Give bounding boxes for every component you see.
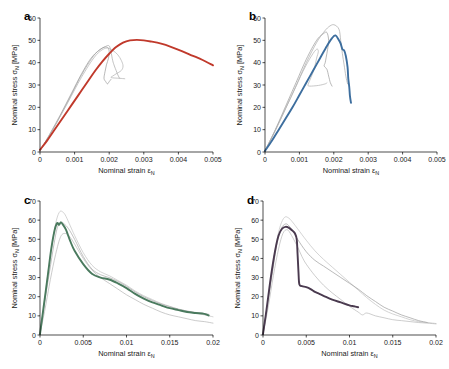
svg-text:50: 50: [28, 37, 36, 44]
svg-text:Nominal strain εN: Nominal strain εN: [98, 349, 155, 359]
svg-text:60: 60: [253, 15, 261, 22]
panel-b: b 010203040506000.0010.0020.0030.0040.00…: [225, 0, 449, 185]
svg-text:0.003: 0.003: [135, 156, 153, 163]
svg-text:0: 0: [257, 149, 261, 156]
svg-text:60: 60: [251, 217, 259, 224]
svg-text:70: 70: [251, 198, 259, 205]
svg-text:30: 30: [28, 274, 36, 281]
svg-text:10: 10: [28, 312, 36, 319]
svg-text:0.002: 0.002: [325, 156, 343, 163]
svg-text:Nominal stress σN [MPa]: Nominal stress σN [MPa]: [10, 228, 20, 309]
svg-text:30: 30: [253, 82, 261, 89]
svg-text:0.01: 0.01: [120, 339, 134, 346]
svg-text:60: 60: [28, 15, 36, 22]
svg-text:0.004: 0.004: [394, 156, 412, 163]
svg-text:Nominal strain εN: Nominal strain εN: [321, 349, 378, 359]
svg-text:70: 70: [28, 198, 36, 205]
svg-text:30: 30: [251, 274, 259, 281]
svg-text:40: 40: [28, 59, 36, 66]
svg-text:0.002: 0.002: [100, 156, 118, 163]
svg-text:50: 50: [28, 236, 36, 243]
panel-b-plot: 010203040506000.0010.0020.0030.0040.005N…: [225, 0, 449, 185]
svg-text:0.001: 0.001: [66, 156, 84, 163]
svg-text:Nominal strain εN: Nominal strain εN: [98, 166, 155, 176]
svg-text:Nominal stress σN [MPa]: Nominal stress σN [MPa]: [235, 45, 245, 126]
svg-text:0: 0: [38, 156, 42, 163]
panel-c: c 01020304050607000.0050.010.0150.02Nomi…: [0, 185, 225, 369]
svg-text:0.015: 0.015: [161, 339, 179, 346]
svg-text:0: 0: [261, 339, 265, 346]
svg-text:0: 0: [263, 156, 267, 163]
svg-text:0.003: 0.003: [359, 156, 377, 163]
svg-text:0: 0: [32, 332, 36, 339]
svg-text:0.02: 0.02: [206, 339, 220, 346]
stress-strain-figure: a 010203040506000.0010.0020.0030.0040.00…: [0, 0, 449, 369]
svg-text:0.005: 0.005: [204, 156, 222, 163]
svg-text:10: 10: [251, 312, 259, 319]
svg-text:0.001: 0.001: [291, 156, 309, 163]
svg-text:20: 20: [28, 104, 36, 111]
svg-text:40: 40: [251, 255, 259, 262]
panel-c-plot: 01020304050607000.0050.010.0150.02Nomina…: [0, 185, 225, 369]
svg-text:50: 50: [251, 236, 259, 243]
svg-text:0: 0: [255, 332, 259, 339]
panel-a: a 010203040506000.0010.0020.0030.0040.00…: [0, 0, 225, 185]
panel-d: d 01020304050607000.0050.010.0150.02Nomi…: [225, 185, 449, 369]
svg-text:0.01: 0.01: [343, 339, 357, 346]
svg-text:10: 10: [28, 126, 36, 133]
svg-text:40: 40: [28, 255, 36, 262]
svg-text:Nominal strain εN: Nominal strain εN: [323, 166, 380, 176]
svg-text:0.005: 0.005: [297, 339, 315, 346]
svg-text:Nominal stress σN [MPa]: Nominal stress σN [MPa]: [233, 228, 243, 309]
svg-text:20: 20: [253, 104, 261, 111]
svg-text:0.005: 0.005: [74, 339, 92, 346]
svg-text:30: 30: [28, 82, 36, 89]
svg-text:0: 0: [38, 339, 42, 346]
svg-text:60: 60: [28, 217, 36, 224]
svg-text:0.015: 0.015: [384, 339, 402, 346]
svg-text:50: 50: [253, 37, 261, 44]
svg-text:0.02: 0.02: [429, 339, 443, 346]
svg-text:20: 20: [251, 293, 259, 300]
svg-text:40: 40: [253, 59, 261, 66]
svg-text:20: 20: [28, 293, 36, 300]
panel-d-plot: 01020304050607000.0050.010.0150.02Nomina…: [225, 185, 449, 369]
svg-text:10: 10: [253, 126, 261, 133]
svg-text:0.005: 0.005: [428, 156, 446, 163]
panel-a-plot: 010203040506000.0010.0020.0030.0040.005N…: [0, 0, 225, 185]
svg-text:Nominal stress σN [MPa]: Nominal stress σN [MPa]: [10, 45, 20, 126]
svg-text:0: 0: [32, 149, 36, 156]
svg-text:0.004: 0.004: [170, 156, 188, 163]
